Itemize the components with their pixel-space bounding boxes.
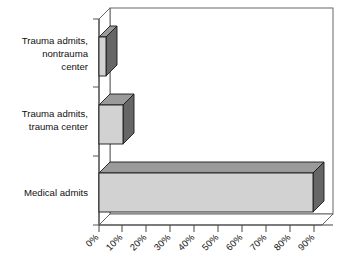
x-tick-label-0: 0%	[84, 232, 101, 249]
x-tick-label-40: 40%	[176, 232, 196, 252]
x-tick-label-80: 80%	[272, 232, 292, 252]
bar-medical-admits[interactable]	[99, 162, 324, 212]
category-label-nontrauma-line1: Trauma admits,	[22, 35, 88, 46]
x-tick-label-60: 60%	[224, 232, 244, 252]
x-tick-label-50: 50%	[200, 232, 220, 252]
bar-chart: Trauma admits, nontrauma center Trauma a…	[0, 0, 341, 268]
bar-front-face	[99, 105, 123, 144]
category-label-trauma-center-line1: Trauma admits,	[22, 108, 88, 119]
bar-front-face	[99, 37, 106, 76]
bar-front-face	[99, 173, 313, 212]
x-tick-labels: 0% 10% 20% 30% 40% 50% 60% 70% 80% 90%	[84, 232, 317, 252]
x-tick-label-70: 70%	[248, 232, 268, 252]
bar-trauma-admits-trauma-center[interactable]	[99, 94, 134, 144]
x-tick-label-20: 20%	[128, 232, 148, 252]
category-labels: Trauma admits, nontrauma center Trauma a…	[22, 35, 89, 198]
x-tick-label-10: 10%	[104, 232, 124, 252]
category-label-nontrauma-line2: nontrauma	[42, 48, 89, 59]
chart-svg: Trauma admits, nontrauma center Trauma a…	[0, 0, 341, 268]
x-tick-label-30: 30%	[152, 232, 172, 252]
floor-panel	[99, 214, 333, 225]
bar-top-face	[99, 162, 324, 173]
x-axis-ticks	[99, 225, 314, 232]
x-tick-label-90: 90%	[296, 232, 316, 252]
category-label-nontrauma-line3: center	[61, 61, 88, 72]
category-label-trauma-center-line2: trauma center	[29, 121, 89, 132]
category-label-medical-admits: Medical admits	[24, 187, 88, 198]
